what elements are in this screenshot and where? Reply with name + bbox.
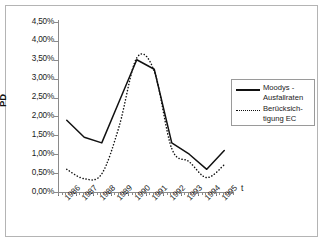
legend-swatch-dotted-line-icon (235, 105, 261, 117)
series-line-moodys-ausfallraten (67, 60, 225, 170)
legend-label: Berücksich- tigung EC (261, 104, 303, 123)
series-line-beruecksichtigung-ec (67, 54, 225, 180)
chart-legend: Moodys - Ausfallraten Berücksich- tigung… (231, 79, 315, 126)
legend-item-beruecksichtigung-ec: Berücksich- tigung EC (235, 104, 303, 123)
legend-label: Moodys - Ausfallraten (261, 83, 303, 102)
chart-figure: PD t 4,50%4,00%3,50%3,00%2,50%2,00%1,50%… (0, 0, 324, 243)
legend-swatch-solid-line-icon (235, 84, 261, 96)
legend-item-moodys-ausfallraten: Moodys - Ausfallraten (235, 83, 303, 102)
